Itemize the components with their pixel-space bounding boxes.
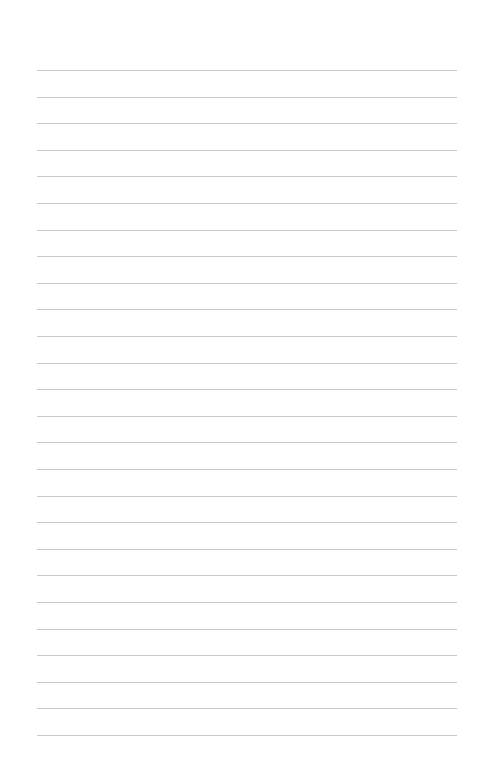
ruled-line	[37, 442, 457, 443]
ruled-line	[37, 283, 457, 284]
ruled-line	[37, 575, 457, 576]
ruled-line	[37, 363, 457, 364]
ruled-line	[37, 97, 457, 98]
ruled-line	[37, 70, 457, 71]
ruled-line	[37, 549, 457, 550]
ruled-line	[37, 655, 457, 656]
ruled-line	[37, 522, 457, 523]
ruled-line	[37, 123, 457, 124]
ruled-line	[37, 203, 457, 204]
ruled-line	[37, 256, 457, 257]
ruled-line	[37, 389, 457, 390]
ruled-line	[37, 336, 457, 337]
ruled-paper-page	[0, 0, 490, 770]
ruled-line	[37, 469, 457, 470]
ruled-line	[37, 735, 457, 736]
ruled-line	[37, 708, 457, 709]
ruled-line	[37, 629, 457, 630]
ruled-line	[37, 682, 457, 683]
ruled-line	[37, 230, 457, 231]
ruled-line	[37, 150, 457, 151]
ruled-line	[37, 496, 457, 497]
ruled-line	[37, 309, 457, 310]
ruled-line	[37, 416, 457, 417]
ruled-line	[37, 176, 457, 177]
ruled-line	[37, 602, 457, 603]
